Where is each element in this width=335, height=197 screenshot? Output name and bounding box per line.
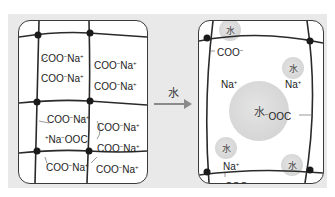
carboxylate-label: COO−Na+ [97,143,140,154]
carboxylate-label: COO−Na+ [94,81,137,92]
arrow-right-icon [184,99,192,109]
carboxylate-label: COO− [217,47,243,58]
carboxylate-label: COO−Na+ [47,114,90,125]
network-lines [199,21,323,183]
swollen-network-box: 水 水 水 水 水 COO− Na+ [198,20,324,184]
network-lines [19,21,147,183]
diagram-panel: COO−Na+ COO−Na+ COO−Na+ COO−Na+ COO−Na+ … [8,14,327,188]
carboxylate-label: COO−Na+ [97,122,140,133]
carboxylate-reverse-label: −OOC [265,111,291,122]
carboxylate-label: COO−Na+ [41,73,84,84]
carboxylate-label: COO− [225,181,251,184]
carboxylate-reverse-label: +Na−OOC [45,134,88,145]
hydration-arrow: 水 [154,78,194,118]
carboxylate-label: COO−Na+ [94,60,137,71]
carboxylate-label: COO−Na+ [46,162,89,173]
sodium-ion-label: Na+ [221,79,237,90]
dry-network-box: COO−Na+ COO−Na+ COO−Na+ COO−Na+ COO−Na+ … [18,20,148,184]
sodium-ion-label: Na+ [223,161,239,172]
arrow-shaft [154,103,186,105]
sodium-ion-label: Na+ [285,79,301,90]
carboxylate-label: COO−Na+ [96,164,139,175]
water-label: 水 [168,84,179,100]
carboxylate-label: COO−Na+ [41,53,84,64]
